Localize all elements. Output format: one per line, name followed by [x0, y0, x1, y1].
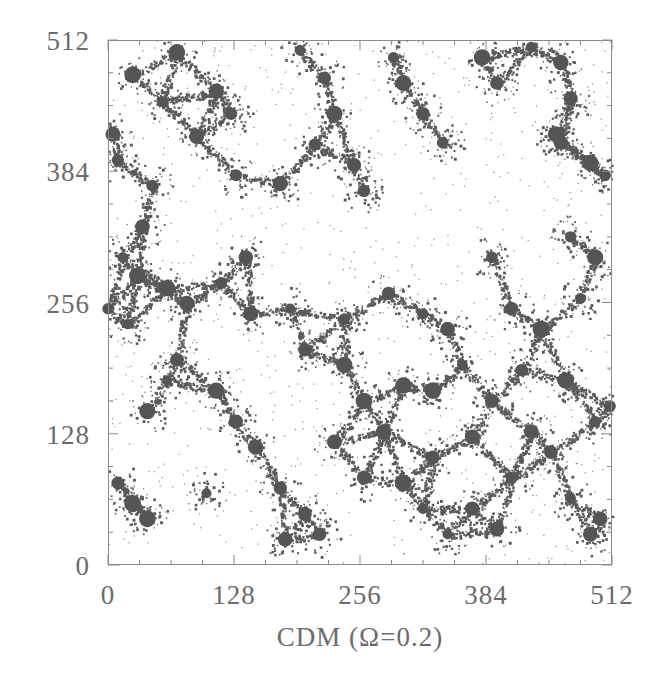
density-plot-figure: 512 384 256 128 0 0 128 256 384 512 CDM …: [0, 0, 669, 682]
plot-frame: [108, 40, 612, 565]
